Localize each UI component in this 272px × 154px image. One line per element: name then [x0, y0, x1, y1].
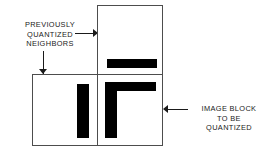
edge-feature-vertical-main-block — [105, 82, 117, 138]
edge-feature-vertical-left-block — [77, 84, 89, 138]
image-block-label-line-2: TO BE — [190, 114, 268, 124]
neighbors-label-line-2: QUANTIZED — [10, 30, 90, 40]
image-block-label-line-1: IMAGE BLOCK — [190, 104, 268, 114]
image-block-leader-line-horizontal — [168, 109, 188, 110]
neighbors-label-line-1: PREVIOUSLY — [10, 20, 90, 30]
image-block-to-be-quantized-label: IMAGE BLOCK TO BE QUANTIZED — [190, 104, 268, 133]
edge-feature-horizontal-top-block — [107, 59, 157, 68]
previously-quantized-neighbors-label: PREVIOUSLY QUANTIZED NEIGHBORS — [10, 20, 90, 49]
neighbors-label-line-3: NEIGHBORS — [10, 39, 90, 49]
quantization-block-diagram: PREVIOUSLY QUANTIZED NEIGHBORS IMAGE BLO… — [0, 0, 272, 154]
image-block-label-line-3: QUANTIZED — [190, 123, 268, 133]
